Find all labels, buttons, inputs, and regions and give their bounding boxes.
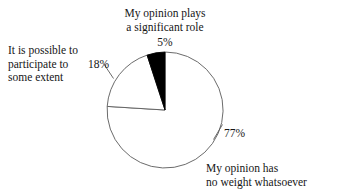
slice-label-no-weight-line1: My opinion has bbox=[206, 162, 336, 176]
slice-label-significant-role: My opinion plays a significant role bbox=[107, 7, 223, 34]
slice-label-significant-role-line1: My opinion plays bbox=[107, 7, 223, 21]
slice-percent-no-weight-whatsoever: 77% bbox=[224, 127, 245, 140]
slice-percent-significant-role: 5% bbox=[107, 36, 223, 49]
slice-percent-participate-some-extent: 18% bbox=[88, 58, 109, 71]
slice-label-no-weight-whatsoever: My opinion has no weight whatsoever bbox=[206, 162, 336, 189]
slice-label-participate-some-extent: It is possible to participate to some ex… bbox=[8, 44, 86, 85]
slice-label-no-weight-line2: no weight whatsoever bbox=[206, 176, 336, 190]
slice-label-participate-line1: It is possible to bbox=[8, 44, 86, 58]
slice-label-participate-line2: participate to bbox=[8, 58, 86, 72]
pie-chart-figure: My opinion plays a significant role 5% I… bbox=[0, 0, 338, 196]
slice-label-significant-role-line2: a significant role bbox=[107, 21, 223, 35]
slice-label-participate-line3: some extent bbox=[8, 71, 86, 85]
